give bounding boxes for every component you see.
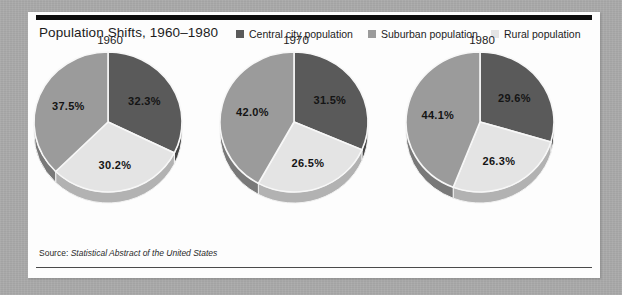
- pie-canvas-1960: 32.3%30.2%37.5%: [30, 48, 190, 208]
- source-title: Statistical Abstract of the United State…: [71, 248, 218, 258]
- pie-canvas-1970: 31.5%26.5%42.0%: [216, 48, 376, 208]
- pie-canvas-1980: 29.6%26.3%44.1%: [402, 48, 562, 208]
- pie-chart-group: 1960 32.3%30.2%37.5% 1970 31.5%26.5%42.0…: [28, 34, 600, 239]
- pie-svg-1980: [402, 48, 562, 208]
- pie-slice-label: 30.2%: [99, 159, 132, 171]
- pie-year-label-1960: 1960: [20, 34, 200, 46]
- top-divider-rule: [36, 15, 592, 20]
- pie-slice-label: 42.0%: [236, 106, 269, 118]
- pie-year-label-1970: 1970: [206, 34, 386, 46]
- pie-top-face: [406, 52, 554, 192]
- pie-chart-1960: 1960 32.3%30.2%37.5%: [20, 34, 200, 234]
- pie-slice-label: 32.3%: [128, 95, 161, 107]
- pie-slice-label: 26.5%: [292, 157, 325, 169]
- bottom-divider-rule: [36, 267, 592, 268]
- source-note: Source: Statistical Abstract of the Unit…: [39, 248, 217, 258]
- pie-slice-label: 37.5%: [52, 100, 85, 112]
- chart-card: Population Shifts, 1960–1980 Central cit…: [28, 12, 600, 278]
- pie-chart-1970: 1970 31.5%26.5%42.0%: [206, 34, 386, 234]
- pie-slice-label: 26.3%: [483, 155, 516, 167]
- pie-slice-label: 29.6%: [498, 92, 531, 104]
- pie-svg-1960: [30, 48, 190, 208]
- pie-svg-1970: [216, 48, 376, 208]
- pie-year-label-1980: 1980: [392, 34, 572, 46]
- source-label: Source:: [39, 248, 68, 258]
- pie-slice-label: 44.1%: [421, 109, 454, 121]
- pie-chart-1980: 1980 29.6%26.3%44.1%: [392, 34, 572, 234]
- pie-top-face: [220, 52, 368, 192]
- pie-slice-label: 31.5%: [314, 94, 347, 106]
